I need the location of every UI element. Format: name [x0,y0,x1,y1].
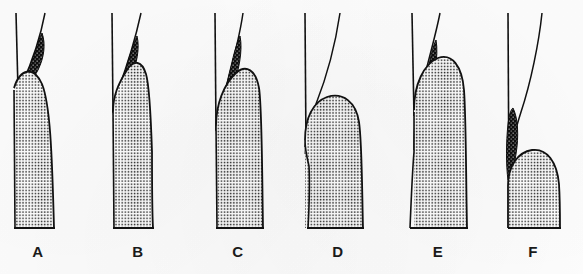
tooth-body-left-edge-A [14,90,15,228]
panel-E [407,13,472,238]
panel-C [209,13,269,238]
panel-B [106,13,166,237]
tooth-body-fill-C [209,62,269,238]
figure-illustration [0,0,583,274]
panel-label-E: E [425,243,451,260]
tooth-body-fill-B [106,55,166,237]
panel-label-F: F [520,243,546,260]
panel-label-A: A [25,243,51,260]
panel-F [502,13,566,238]
tooth-surface-line-C [215,13,216,130]
cut-off-caption-ghost [6,264,576,273]
figure-container: A B C D E F [0,0,583,274]
panel-label-B: B [125,243,151,260]
panel-label-C: C [225,243,251,260]
tooth-body-left-edge-C [216,126,217,228]
tooth-body-left-edge-E [410,112,414,228]
tooth-body-left-edge-B [113,112,114,228]
panel-D [298,13,368,238]
panel-A [8,13,68,235]
panel-label-D: D [325,243,351,260]
tooth-surface-line-B [112,13,113,112]
